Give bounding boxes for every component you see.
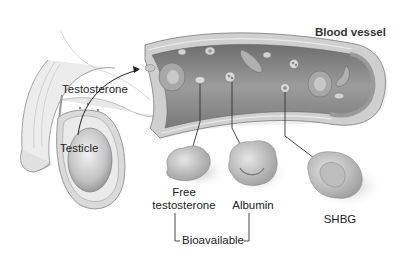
free-testosterone-line1: Free: [144, 186, 224, 199]
free-testosterone-molecule: [167, 146, 228, 188]
arrow-head-icon: [133, 66, 140, 73]
free-testosterone-line2: testosterone: [144, 199, 224, 212]
anatomy-illustration: [21, 30, 159, 209]
bioavailable-label: Bioavailable: [182, 234, 242, 247]
testicle-shape: [68, 128, 112, 192]
blood-vessel-illustration: [145, 33, 388, 140]
free-testosterone-label: Free testosterone: [144, 186, 224, 212]
shbg-label: SHBG: [320, 213, 360, 226]
blood-vessel-label: Blood vessel: [315, 26, 386, 39]
testicle-label: Testicle: [60, 142, 98, 155]
shbg-molecule: [308, 152, 384, 208]
albumin-molecule: [228, 141, 288, 194]
albumin-label: Albumin: [226, 199, 280, 212]
testosterone-label: Testosterone: [62, 83, 128, 96]
